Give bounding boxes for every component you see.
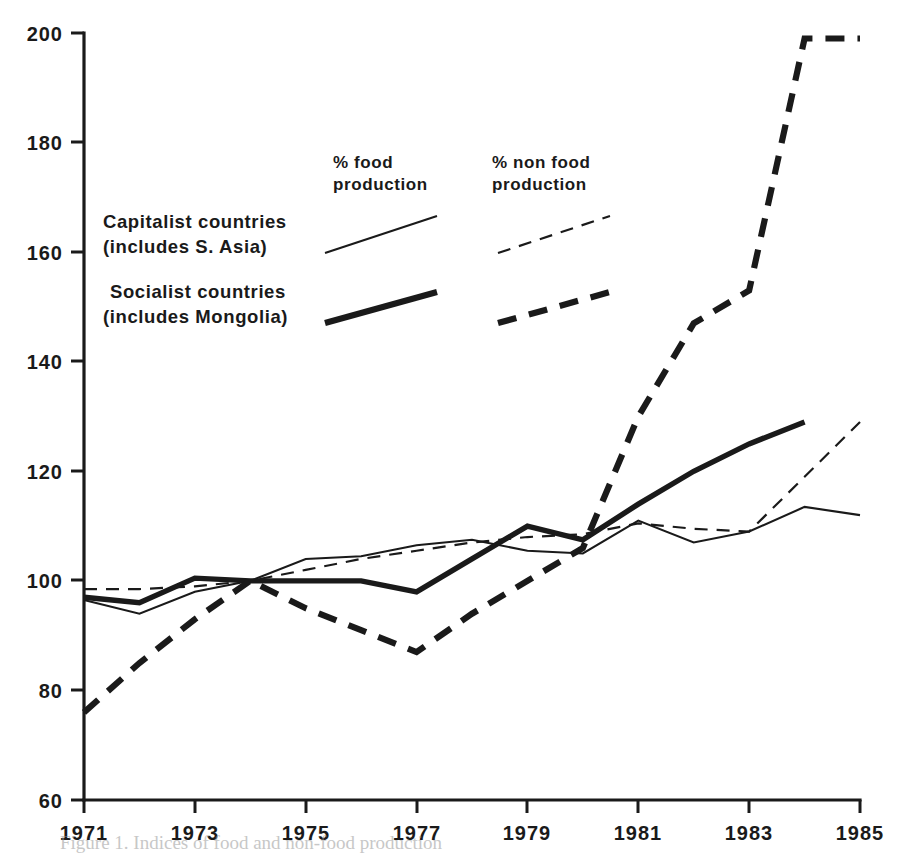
legend-label-socialist-line1: Socialist countries (110, 281, 286, 302)
legend-header-food-line1: % food (333, 153, 393, 172)
y-tick-label-100: 100 (27, 570, 63, 592)
legend-header-nonfood-line2: production (492, 175, 587, 194)
y-tick-label-120: 120 (27, 461, 63, 483)
legend-column-nonfood: % non food production (492, 153, 591, 194)
y-axis-tick-labels: 200 180 160 140 120 100 80 60 (27, 23, 63, 812)
y-tick-label-180: 180 (27, 132, 63, 154)
y-axis-ticks (71, 33, 84, 800)
y-tick-label-80: 80 (39, 680, 63, 702)
series-socialist-food (84, 422, 805, 603)
x-tick-label-1985: 1985 (836, 822, 885, 844)
legend-label-capitalist-line2: (includes S. Asia) (103, 236, 267, 257)
legend-row-capitalist: Capitalist countries (includes S. Asia) (103, 211, 610, 257)
y-tick-label-160: 160 (27, 242, 63, 264)
chart-legend: % food production % non food production … (103, 153, 610, 327)
legend-swatch-capitalist-nonfood (498, 216, 610, 253)
series-socialist-nonfood (84, 38, 860, 712)
legend-label-socialist-line2: (includes Mongolia) (103, 306, 288, 327)
y-tick-label-60: 60 (39, 790, 63, 812)
plot-series-group (84, 38, 860, 712)
chart-page: 200 180 160 140 120 100 80 60 (0, 0, 904, 864)
y-tick-label-140: 140 (27, 351, 63, 373)
production-index-line-chart: 200 180 160 140 120 100 80 60 (0, 0, 904, 864)
legend-label-capitalist-line1: Capitalist countries (103, 211, 287, 232)
legend-swatch-socialist-nonfood (498, 292, 610, 323)
axes: 200 180 160 140 120 100 80 60 (27, 23, 885, 844)
legend-header-nonfood-line1: % non food (492, 153, 591, 172)
y-tick-label-200: 200 (27, 23, 63, 45)
legend-swatch-socialist-food (325, 292, 437, 323)
x-axis-ticks (84, 800, 860, 813)
page-caption: Figure 1. Indices of food and non-food p… (60, 832, 820, 858)
legend-row-socialist: Socialist countries (includes Mongolia) (103, 281, 610, 327)
legend-column-food: % food production (333, 153, 428, 194)
legend-header-food-line2: production (333, 175, 428, 194)
legend-swatch-capitalist-food (325, 216, 437, 253)
